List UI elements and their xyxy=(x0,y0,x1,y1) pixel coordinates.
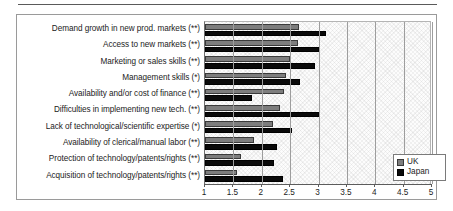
bar-row xyxy=(205,135,430,151)
bar-row xyxy=(205,103,430,119)
bar-uk xyxy=(205,170,237,176)
category-label: Acquisition of technology/patents/rights… xyxy=(17,168,204,184)
legend-item-uk: UK xyxy=(397,157,442,167)
top-divider-rule xyxy=(18,4,437,5)
x-axis-tick-label: 2 xyxy=(258,188,263,197)
category-label: Protection of technology/patents/rights … xyxy=(17,151,204,167)
category-label: Demand growth in new prod. markets (**) xyxy=(17,21,204,37)
bar-japan xyxy=(205,176,283,182)
x-axis-tick xyxy=(204,184,205,187)
bar-japan xyxy=(205,128,292,134)
bar-japan xyxy=(205,79,300,85)
bar-uk xyxy=(205,137,254,143)
bar-row xyxy=(205,119,430,135)
chart-legend: UK Japan xyxy=(393,154,446,181)
bar-japan xyxy=(205,95,252,101)
x-axis-tick-label: 5 xyxy=(429,188,434,197)
legend-label-uk: UK xyxy=(407,157,418,167)
bar-japan xyxy=(205,144,277,150)
x-axis-tick xyxy=(374,184,375,187)
x-axis-tick-label: 2.5 xyxy=(283,188,294,197)
bar-row xyxy=(205,38,430,54)
category-axis-labels: Demand growth in new prod. markets (**)A… xyxy=(17,21,204,184)
bar-uk xyxy=(205,105,280,111)
x-axis-tick-label: 3.5 xyxy=(340,188,351,197)
category-label: Availability of clerical/manual labor (*… xyxy=(17,135,204,151)
chart-page: Demand growth in new prod. markets (**)A… xyxy=(0,0,453,211)
bar-uk xyxy=(205,89,284,95)
x-axis-tick-label: 4 xyxy=(372,188,377,197)
bar-row xyxy=(205,87,430,103)
category-label: Availability and/or cost of finance (**) xyxy=(17,86,204,102)
category-label: Access to new markets (**) xyxy=(17,37,204,53)
x-axis-tick xyxy=(403,184,404,187)
bar-uk xyxy=(205,56,290,62)
x-axis-tick xyxy=(232,184,233,187)
x-axis-tick xyxy=(318,184,319,187)
bar-row xyxy=(205,22,430,38)
bar-uk xyxy=(205,73,286,79)
legend-label-japan: Japan xyxy=(407,167,429,177)
legend-item-japan: Japan xyxy=(397,167,442,177)
gridline xyxy=(290,22,291,184)
x-axis-tick-label: 4.5 xyxy=(397,188,408,197)
x-axis-tick-label: 3 xyxy=(315,188,320,197)
gridline xyxy=(347,22,348,184)
bar-japan xyxy=(205,31,326,37)
chart-frame: Demand growth in new prod. markets (**)A… xyxy=(16,14,437,200)
gridline xyxy=(262,22,263,184)
gridline xyxy=(375,22,376,184)
category-label: Marketing or sales skills (**) xyxy=(17,54,204,70)
legend-swatch-uk-icon xyxy=(397,159,404,166)
x-axis-tick xyxy=(289,184,290,187)
gridline xyxy=(319,22,320,184)
x-axis-tick xyxy=(346,184,347,187)
gridline xyxy=(233,22,234,184)
bar-row xyxy=(205,71,430,87)
bar-japan xyxy=(205,63,315,69)
bar-japan xyxy=(205,160,274,166)
category-label: Lack of technological/scientific experti… xyxy=(17,119,204,135)
x-axis-tick xyxy=(431,184,432,187)
bar-row xyxy=(205,54,430,70)
x-axis-tick-label: 1.5 xyxy=(227,188,238,197)
bar-uk xyxy=(205,40,298,46)
x-axis-tick-label: 1 xyxy=(202,188,207,197)
legend-swatch-japan-icon xyxy=(397,169,404,176)
bar-uk xyxy=(205,24,299,30)
category-label: Difficulties in implementing new tech. (… xyxy=(17,102,204,118)
category-label: Management skills (*) xyxy=(17,70,204,86)
x-axis-tick xyxy=(261,184,262,187)
bar-uk xyxy=(205,154,241,160)
